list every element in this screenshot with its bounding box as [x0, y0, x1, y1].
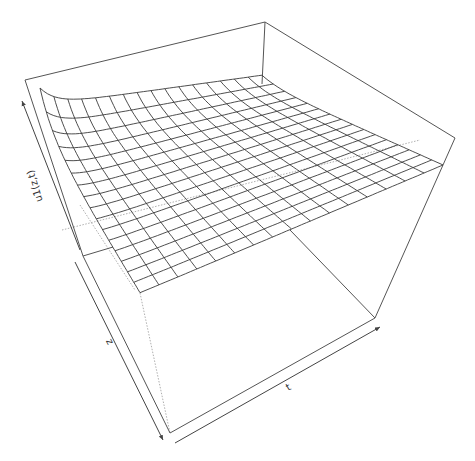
mesh-line	[82, 99, 197, 269]
mesh-line	[68, 99, 178, 277]
mesh-line	[84, 119, 341, 196]
mesh-line	[220, 81, 386, 189]
mesh-line	[137, 93, 273, 238]
mesh-line	[96, 130, 364, 219]
surface-plot: u1(z,t) z t	[0, 0, 475, 461]
mesh-line	[40, 75, 262, 99]
mesh-line	[234, 79, 405, 181]
mesh-line	[59, 98, 296, 148]
mesh-line	[262, 75, 443, 165]
mesh-line	[248, 77, 424, 173]
mesh-line	[103, 135, 376, 230]
mesh-line	[54, 97, 159, 285]
t-axis-arrow	[175, 327, 380, 443]
u-axis-label: u1(z,t)	[25, 169, 45, 204]
mesh-line	[193, 85, 349, 205]
surface-mesh	[40, 75, 443, 293]
mesh-line	[109, 96, 234, 253]
t-axis-label: t	[284, 381, 293, 393]
box-hidden-edges	[62, 140, 420, 433]
z-axis-label: z	[104, 337, 116, 347]
